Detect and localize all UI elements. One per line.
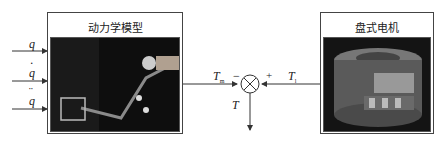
disc-motor-title: 盘式电机 — [321, 19, 433, 35]
robot-arm-image — [50, 37, 180, 132]
tm-label: Tm — [213, 70, 224, 84]
minus-sign: − — [233, 70, 240, 82]
input-qdot-label: q — [29, 67, 35, 79]
diagram-canvas: 动力学模型 q · q ¨ q Tm − + Tl — [0, 0, 446, 144]
robot-arm-icon — [51, 38, 180, 132]
disc-motor-block: 盘式电机 — [320, 12, 434, 134]
plus-sign: + — [266, 70, 272, 81]
input-q-label: q — [29, 38, 35, 50]
input-qddot-label: q — [29, 95, 35, 107]
output-t-label: T — [232, 99, 239, 111]
disc-motor-image — [323, 37, 431, 132]
dynamics-model-title: 动力学模型 — [48, 19, 182, 35]
disc-motor-icon — [324, 38, 431, 132]
tl-label: Tl — [288, 70, 296, 84]
dynamics-model-block: 动力学模型 — [47, 12, 183, 134]
